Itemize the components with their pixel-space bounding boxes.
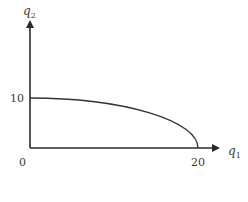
origin-label: 0 — [19, 156, 26, 169]
x-tick-20: 20 — [191, 156, 205, 169]
y-tick-10: 10 — [10, 92, 24, 105]
chart: q2 q1 10 0 20 — [0, 0, 248, 202]
x-axis-label: q1 — [228, 144, 241, 160]
y-axis-label: q2 — [23, 4, 36, 20]
frontier-curve — [30, 98, 198, 148]
